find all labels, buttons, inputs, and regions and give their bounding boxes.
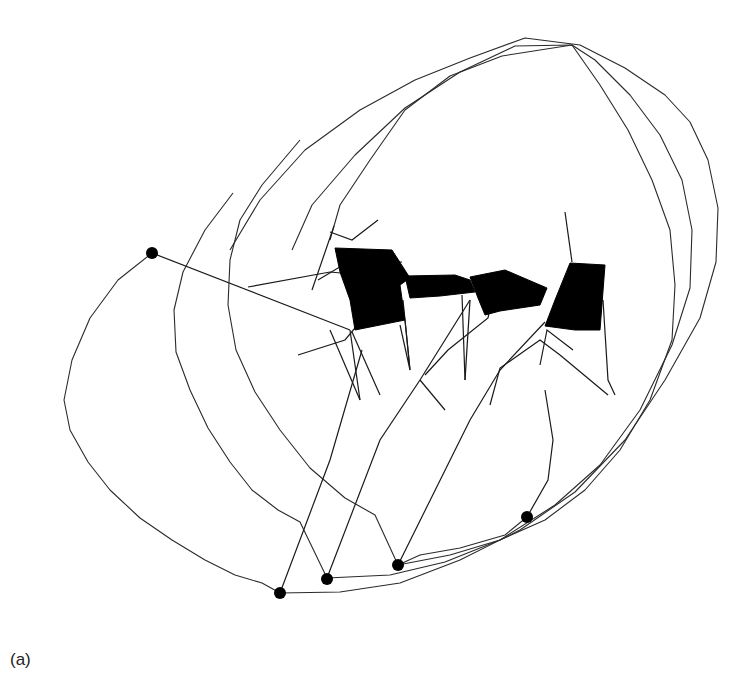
endpoint-marker <box>392 559 404 571</box>
segment-3 <box>470 270 547 315</box>
segment-4 <box>545 263 605 330</box>
limb-segment <box>527 390 553 517</box>
second-arc <box>174 193 327 578</box>
endpoint-marker <box>321 573 333 585</box>
limb-segment <box>603 300 615 395</box>
body-segments <box>335 248 605 330</box>
endpoint-marker <box>146 247 158 259</box>
limb-segment <box>327 300 470 578</box>
limb-segment <box>330 220 378 240</box>
limb-segment <box>540 330 573 365</box>
trajectory-figure <box>0 0 751 690</box>
segment-2 <box>405 275 475 298</box>
outer-left-arc <box>64 253 280 593</box>
limb-segment <box>560 355 608 395</box>
limb-segment <box>490 340 560 405</box>
limb-segment <box>465 300 470 380</box>
limb-segment <box>312 226 334 290</box>
limb-segment <box>352 332 380 395</box>
limb-segment <box>280 350 362 593</box>
endpoint-marker <box>521 511 533 523</box>
endpoint-marker <box>274 587 286 599</box>
segment-1 <box>335 248 410 330</box>
limb-segment <box>565 212 572 262</box>
limb-segment <box>420 380 445 410</box>
limb-segment <box>425 300 492 375</box>
outer-loop-1 <box>230 38 718 593</box>
panel-label: (a) <box>10 650 31 670</box>
end-trace-4 <box>398 517 527 565</box>
limb-segment <box>405 320 410 370</box>
